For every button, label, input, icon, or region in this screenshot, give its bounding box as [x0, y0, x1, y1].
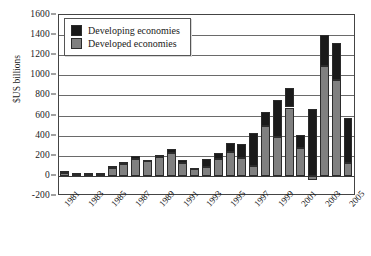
bar-slot — [236, 15, 248, 194]
bar-segment-developing — [72, 173, 81, 175]
x-tick-slot — [141, 196, 153, 254]
bar-segment-developing — [167, 149, 176, 153]
y-tick-mark — [51, 54, 56, 55]
bar-segment-developing — [261, 112, 270, 126]
x-tick-slot — [284, 196, 296, 254]
y-tick-label: 600 — [35, 110, 50, 120]
bar-segment-developing — [320, 35, 329, 66]
bar-stack — [332, 15, 341, 196]
bar-segment-developing — [96, 173, 105, 175]
legend-swatch-developing — [71, 25, 82, 36]
y-tick-label: 1400 — [30, 29, 50, 39]
bar-segment-developing — [308, 109, 317, 176]
x-tick-slot — [331, 196, 343, 254]
bar-segment-developed — [308, 176, 317, 180]
legend-label-developing: Developing economies — [88, 25, 180, 36]
chart-legend: Developing economies Developed economies — [64, 18, 191, 56]
stacked-bar-chart: $US billions 160014001200100080060040020… — [0, 0, 371, 256]
bar-segment-developed — [226, 152, 235, 176]
y-tick-mark — [51, 174, 56, 175]
bar-segment-developing — [202, 159, 211, 167]
bar-slot — [307, 15, 319, 194]
bar-stack — [190, 15, 199, 196]
bar-segment-developed — [332, 80, 341, 176]
bar-segment-developing — [214, 153, 223, 159]
bar-slot — [248, 15, 260, 194]
y-tick-label: 1200 — [30, 49, 50, 59]
bar-segment-developing — [84, 173, 93, 175]
y-tick-mark — [51, 114, 56, 115]
x-tick-slot: 1985 — [106, 196, 118, 254]
bar-slot — [271, 15, 283, 194]
x-tick-slot — [165, 196, 177, 254]
bar-segment-developing — [60, 171, 69, 173]
bar-stack — [202, 15, 211, 196]
bar-segment-developed — [108, 168, 117, 176]
bar-segment-developing — [119, 162, 128, 164]
bar-segment-developing — [296, 135, 305, 148]
bar-segment-developing — [237, 144, 246, 158]
x-tick-slot: 1983 — [82, 196, 94, 254]
bar-segment-developing — [249, 133, 258, 166]
bar-slot — [295, 15, 307, 194]
x-tick-slot — [236, 196, 248, 254]
y-tick-mark — [51, 74, 56, 75]
bar-stack — [285, 15, 294, 196]
bar-segment-developing — [285, 88, 294, 108]
x-tick-slot — [70, 196, 82, 254]
bar-slot — [319, 15, 331, 194]
x-tick-slot — [117, 196, 129, 254]
y-tick-mark — [51, 154, 56, 155]
x-tick-slot: 1995 — [224, 196, 236, 254]
bar-segment-developed — [261, 126, 270, 176]
bar-slot — [330, 15, 342, 194]
bar-segment-developed — [178, 163, 187, 176]
bar-segment-developing — [226, 143, 235, 152]
bar-segment-developed — [143, 160, 152, 176]
bar-stack — [226, 15, 235, 196]
bar-slot — [283, 15, 295, 194]
x-tick-slot: 1993 — [201, 196, 213, 254]
y-tick-label: 1600 — [30, 9, 50, 19]
y-tick-label: 800 — [35, 89, 50, 99]
x-tick-slot — [260, 196, 272, 254]
bar-segment-developed — [273, 137, 282, 176]
y-tick-mark — [51, 14, 56, 15]
legend-item-developing: Developing economies — [71, 25, 180, 36]
bar-segment-developing — [108, 166, 117, 168]
bar-segment-developed — [214, 159, 223, 176]
x-tick-slot — [307, 196, 319, 254]
y-tick-mark — [51, 94, 56, 95]
x-tick-slot: 2003 — [319, 196, 331, 254]
bar-segment-developed — [202, 167, 211, 176]
y-tick-label: 1000 — [30, 69, 50, 79]
bar-segment-developing — [190, 168, 199, 170]
x-tick-slot — [212, 196, 224, 254]
bar-segment-developing — [131, 156, 140, 160]
bar-stack — [308, 15, 317, 196]
y-tick-label: 400 — [35, 130, 50, 140]
bar-stack — [296, 15, 305, 196]
bar-stack — [237, 15, 246, 196]
bar-segment-developed — [131, 159, 140, 176]
bar-segment-developed — [155, 157, 164, 176]
bar-segment-developed — [285, 108, 294, 176]
bar-segment-developing — [344, 118, 353, 163]
bar-segment-developed — [296, 148, 305, 176]
bar-slot — [260, 15, 272, 194]
bar-stack — [261, 15, 270, 196]
x-tick-slot: 1987 — [129, 196, 141, 254]
bar-segment-developed — [320, 66, 329, 176]
bar-stack — [214, 15, 223, 196]
bar-stack — [320, 15, 329, 196]
x-tick-slot: 1989 — [153, 196, 165, 254]
bar-segment-developed — [237, 158, 246, 176]
x-tick-slot: 1999 — [272, 196, 284, 254]
bar-segment-developed — [167, 153, 176, 176]
x-tick-slot: 1981 — [58, 196, 70, 254]
bar-stack — [273, 15, 282, 196]
legend-swatch-developed — [71, 38, 82, 49]
bar-segment-developing — [178, 160, 187, 163]
y-tick-mark — [51, 134, 56, 135]
x-tick-slot — [189, 196, 201, 254]
